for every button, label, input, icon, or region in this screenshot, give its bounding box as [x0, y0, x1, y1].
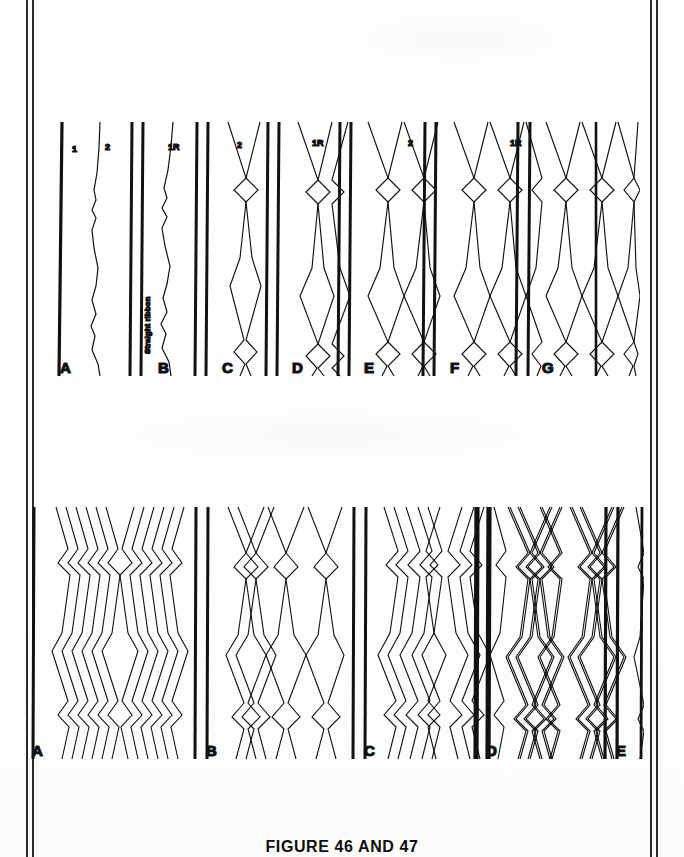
panel-letter: C	[222, 359, 233, 376]
column-label: 1	[72, 144, 77, 154]
figure-47-panel-e-svg	[470, 505, 650, 765]
column-label: 2	[237, 140, 242, 150]
figure-46-svg: 1 2 A 1R Straight ribbon B	[40, 118, 640, 383]
panel-c-top	[195, 122, 261, 376]
panel-b-bottom	[195, 507, 344, 759]
panel-a-bottom	[33, 507, 188, 759]
panel-letter: A	[60, 359, 71, 376]
column-label: 2	[105, 142, 110, 152]
scan-smudge	[330, 10, 590, 70]
scanned-page: 1 2 A 1R Straight ribbon B	[0, 0, 684, 857]
figure-46-plate: 1 2 A 1R Straight ribbon B	[40, 118, 640, 383]
panel-letter: D	[292, 359, 303, 376]
figure-caption: FIGURE 46 AND 47	[0, 838, 684, 856]
panel-letter: G	[542, 359, 554, 376]
figure-47-panel-e-plate	[470, 505, 650, 765]
panel-letter: B	[158, 359, 169, 376]
column-label: 1R	[510, 138, 522, 148]
panel-f-top	[423, 122, 542, 376]
panel-letter: E	[364, 359, 374, 376]
scan-smudge	[60, 400, 600, 470]
straight-ribbon-label: Straight ribbon	[143, 297, 152, 354]
panel-a-top	[59, 122, 100, 376]
panel-letter: F	[450, 359, 459, 376]
panel-letter: B	[206, 742, 217, 759]
column-label: 1R	[168, 142, 180, 152]
panel-letter: A	[32, 742, 43, 759]
column-label: 1R	[312, 138, 324, 148]
column-label: 2	[408, 138, 413, 148]
panel-letter: C	[364, 742, 375, 759]
panel-g-top	[516, 122, 640, 376]
